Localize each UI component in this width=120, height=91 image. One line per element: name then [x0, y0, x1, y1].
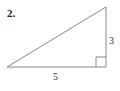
right-angle-marker: [96, 57, 106, 67]
vertical-side-label: 3: [109, 35, 114, 46]
base-side-label: 5: [53, 71, 58, 82]
right-triangle: [7, 7, 106, 67]
triangle-diagram: 2. 3 5: [0, 0, 120, 91]
problem-number: 2.: [7, 7, 16, 19]
